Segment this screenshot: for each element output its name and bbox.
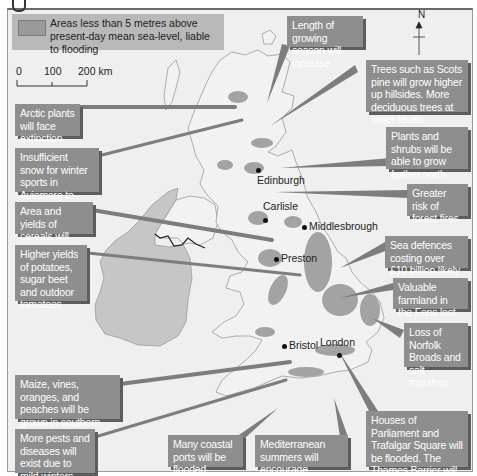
callout-mediterranean: Mediterranean summers will encourage tou… xyxy=(255,435,348,467)
city-london xyxy=(337,348,344,360)
flood-area-fens xyxy=(322,284,358,316)
callout-cereals: Area and yields of cereals will increase xyxy=(15,202,93,234)
callout-maize: Maize, vines, oranges, and peaches will … xyxy=(15,375,120,419)
city-dot-icon xyxy=(337,353,342,358)
city-london-label: London xyxy=(320,336,355,348)
scale-tick-200: 200 km xyxy=(78,65,112,77)
legend-swatch-flood xyxy=(18,20,46,36)
callout-growing-season: Length of growing season will increase xyxy=(287,16,363,47)
callout-norfolk: Loss of Norfolk Broads and salt marshes xyxy=(404,323,468,367)
city-carlisle-label: Carlisle xyxy=(263,200,298,212)
city-middlesbrough: Middlesbrough xyxy=(302,220,378,232)
flood-area-clyde xyxy=(217,160,233,170)
callout-parliament: Houses of Parliament and Trafalgar Squar… xyxy=(366,411,468,467)
scale-tick-0: 0 xyxy=(16,65,22,77)
flood-area-south-coast xyxy=(288,367,324,377)
compass-north-label: N xyxy=(418,9,425,20)
callout-snow: Insufficient snow for winter sports in A… xyxy=(15,148,99,192)
callout-forest-fires: Greater risk of forest fires xyxy=(407,184,468,216)
city-preston-label: Preston xyxy=(281,252,317,264)
callout-plants-shrubs: Plants and shrubs will be able to grow f… xyxy=(386,127,468,169)
pointer-pests xyxy=(95,380,286,437)
city-dot-icon xyxy=(302,225,307,230)
orkney xyxy=(262,30,276,44)
flood-area-tay xyxy=(251,138,273,148)
pointer-sea-defences xyxy=(340,242,388,268)
flood-area-moray xyxy=(228,91,248,103)
callout-arctic-plants: Arctic plants will face extinction xyxy=(15,104,80,136)
city-bristol-label: Bristol xyxy=(289,339,318,351)
city-preston: Preston xyxy=(274,252,317,264)
callout-sea-defences: Sea defences costing over £10 billion li… xyxy=(385,236,468,268)
legend-label: Areas less than 5 metres above present-d… xyxy=(50,17,220,56)
city-dot-icon xyxy=(282,344,287,349)
city-dot-icon xyxy=(263,218,268,223)
flood-area-somerset xyxy=(255,327,275,337)
city-carlisle xyxy=(263,213,270,225)
scale-tick-100: 100 xyxy=(44,65,62,77)
callout-trees: Trees such as Scots pine will grow highe… xyxy=(366,60,468,112)
city-edinburgh-label: Edinburgh xyxy=(257,174,305,186)
compass-arrow xyxy=(413,22,425,55)
pointer-mediterranean xyxy=(334,398,348,437)
city-dot-icon xyxy=(256,168,261,173)
city-bristol: Bristol xyxy=(282,339,318,351)
legend: Areas less than 5 metres above present-d… xyxy=(12,14,224,50)
callout-fens: Valuable farmland in the Fens lost xyxy=(393,278,468,309)
callout-potatoes: Higher yields of potatoes, sugar beet an… xyxy=(15,245,87,301)
callout-ports: Many coastal ports will be flooded xyxy=(168,435,243,467)
western-isles xyxy=(164,60,180,110)
flood-area-tees xyxy=(284,216,302,228)
callout-pests: More pests and diseases will exist due t… xyxy=(15,429,95,473)
city-dot-icon xyxy=(274,257,279,262)
city-middlesbrough-label: Middlesbrough xyxy=(309,220,378,232)
scale-bar: 0 100 200 km xyxy=(12,65,92,95)
